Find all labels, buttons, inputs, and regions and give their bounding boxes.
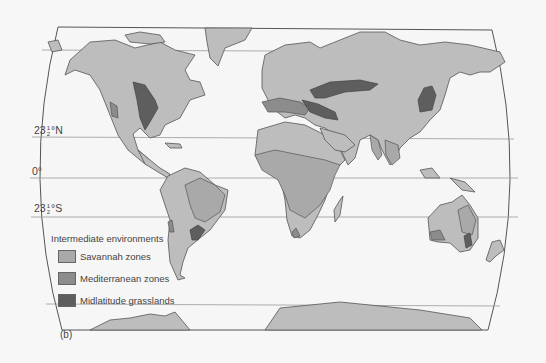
legend-item-grasslands: Midlatitude grasslands — [58, 291, 175, 309]
latitude-label-equator: 0° — [32, 165, 42, 177]
legend-item-savannah: Savannah zones — [58, 247, 175, 265]
legend-label: Mediterranean zones — [80, 273, 169, 284]
latitude-label-tropic-cancer: 2312°N — [34, 124, 63, 137]
latitude-whole: 23 — [34, 202, 46, 214]
latitude-label-tropic-capricorn: 2312°S — [34, 202, 62, 215]
fraction: 12 — [47, 125, 50, 137]
legend-label: Savannah zones — [80, 251, 151, 262]
latitude-suffix: °S — [51, 202, 62, 214]
savannah-swatch — [58, 250, 76, 263]
latitude-suffix: °N — [51, 124, 63, 136]
legend-label: Midlatitude grasslands — [80, 295, 175, 306]
denominator: 2 — [47, 131, 50, 137]
mediterranean-swatch — [58, 272, 76, 285]
denominator: 2 — [47, 209, 50, 215]
grasslands-swatch — [58, 294, 76, 307]
fraction: 12 — [47, 203, 50, 215]
legend-item-mediterranean: Mediterranean zones — [58, 269, 175, 287]
map-legend: Intermediate environments Savannah zones… — [50, 233, 175, 309]
legend-title: Intermediate environments — [51, 233, 175, 244]
latitude-whole: 23 — [34, 124, 46, 136]
panel-label: (b) — [60, 329, 72, 340]
